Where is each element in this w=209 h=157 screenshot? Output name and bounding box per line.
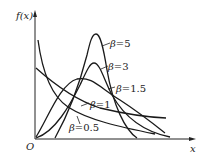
y-axis-label: f(x) (15, 10, 33, 21)
label-beta-3: β=3 (107, 61, 129, 72)
x-axis-label: x (190, 143, 196, 154)
curve-beta-1 (36, 68, 166, 118)
label-beta-5: β=5 (109, 38, 131, 49)
label-beta-1: β=1 (89, 99, 111, 110)
y-axis-arrow-icon (33, 10, 37, 17)
label-beta-0.5: β=0.5 (68, 122, 99, 133)
origin-label: O (26, 141, 34, 152)
label-beta-1.5: β=1.5 (115, 83, 146, 94)
weibull-density-chart: f(x) x O β=5 β=3 β=1.5 β=1 β=0.5 (0, 0, 209, 157)
x-axis-arrow-icon (189, 137, 196, 141)
